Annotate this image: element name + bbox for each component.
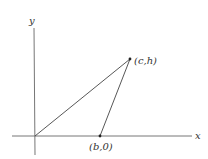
y-axis-label: y: [28, 15, 35, 26]
apex-label: (c,h): [134, 55, 157, 66]
apex-point: [129, 58, 132, 61]
edge-apex-to-base: [100, 59, 130, 136]
coordinate-diagram: y x (c,h) (b,0): [0, 0, 208, 159]
base-label: (b,0): [89, 141, 113, 152]
x-axis-label: x: [195, 130, 201, 141]
edge-origin-to-apex: [35, 59, 130, 136]
base-point: [99, 135, 102, 138]
